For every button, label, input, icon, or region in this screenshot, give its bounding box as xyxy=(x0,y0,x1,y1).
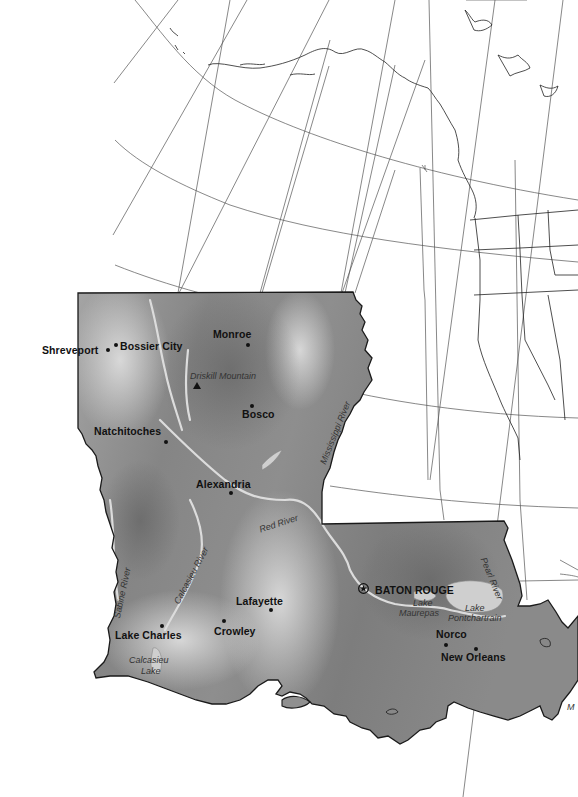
map-graphic xyxy=(0,0,578,797)
city-dot-natchitoches xyxy=(164,440,168,444)
city-label-crowley: Crowley xyxy=(214,625,256,637)
city-dot-monroe xyxy=(246,343,250,347)
city-label-bosco: Bosco xyxy=(242,408,275,420)
edge-label-fragment: M xyxy=(567,702,575,712)
city-dot-shreveport xyxy=(106,348,110,352)
city-label-new-orleans: New Orleans xyxy=(441,651,506,663)
city-label-bossier-city: Bossier City xyxy=(120,340,182,352)
lake-label-maurepas-line1: Lake xyxy=(413,598,433,608)
city-dot-alexandria xyxy=(229,491,233,495)
city-dot-norco xyxy=(444,643,448,647)
city-label-lafayette: Lafayette xyxy=(236,595,283,607)
lake-label-calcasieu-line2: Lake xyxy=(141,666,161,676)
peak-label-driskill-mountain: Driskill Mountain xyxy=(190,371,256,381)
lake-label-calcasieu-line1: Calcasieu xyxy=(129,655,169,665)
city-dot-bossier-city xyxy=(114,343,118,347)
star-in-circle-icon xyxy=(358,583,369,594)
city-label-shreveport: Shreveport xyxy=(42,344,98,356)
city-label-lake-charles: Lake Charles xyxy=(115,629,182,641)
city-dot-crowley xyxy=(222,619,226,623)
map-canvas: Shreveport Bossier City Monroe Bosco Nat… xyxy=(0,0,578,797)
triangle-mountain-icon xyxy=(193,382,201,389)
capital-label-baton-rouge: BATON ROUGE xyxy=(375,584,454,596)
city-dot-lake-charles xyxy=(160,624,164,628)
lake-label-pontchartrain-line2: Pontchartrain xyxy=(448,613,502,623)
city-dot-lafayette xyxy=(269,608,273,612)
city-label-norco: Norco xyxy=(436,628,467,640)
lake-label-pontchartrain-line1: Lake xyxy=(465,603,485,613)
city-label-natchitoches: Natchitoches xyxy=(94,425,161,437)
city-label-alexandria: Alexandria xyxy=(196,478,251,490)
city-label-monroe: Monroe xyxy=(213,328,252,340)
lake-label-maurepas-line2: Maurepas xyxy=(399,608,439,618)
